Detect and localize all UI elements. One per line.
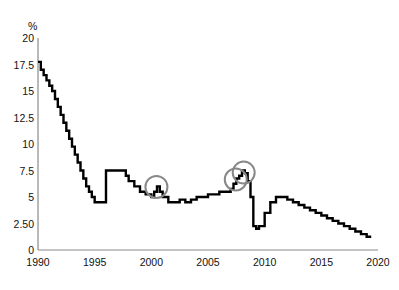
data-line <box>38 62 371 237</box>
interest-rate-chart: % 02.5057.51012.51517.520 19901995200020… <box>0 0 399 290</box>
plot-area <box>0 0 399 290</box>
data-series-group <box>38 62 371 237</box>
